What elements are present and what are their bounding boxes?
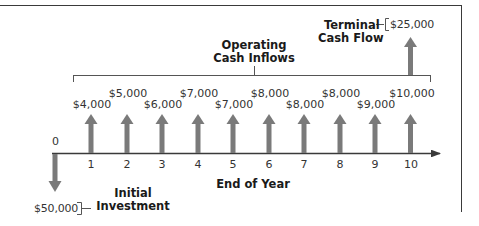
year-label-6: 6 — [266, 159, 273, 170]
inflow-label-year-3: $6,000 — [144, 99, 183, 110]
inflow-label-year-6: $8,000 — [251, 88, 290, 99]
inflow-arrow-year-4 — [192, 114, 205, 153]
operating-title-line1: Operating — [221, 38, 286, 52]
initial-investment-value: $50,000 — [34, 203, 78, 214]
year-label-2: 2 — [124, 159, 131, 170]
year-label-10: 10 — [404, 159, 418, 170]
operating-bracket — [73, 66, 431, 82]
year-label-8: 8 — [337, 159, 344, 170]
operating-title-line2: Cash Inflows — [213, 51, 295, 65]
terminal-arrow — [404, 37, 417, 75]
inflow-arrow-year-2 — [121, 114, 134, 153]
terminal-cash-flow-title: Terminal Cash Flow — [318, 19, 384, 45]
terminal-title-line2: Cash Flow — [318, 31, 384, 45]
inflow-arrow-year-10 — [404, 114, 417, 153]
inflow-label-year-10: $10,000 — [389, 88, 435, 99]
inflow-arrow-year-9 — [369, 114, 382, 153]
inflow-label-year-1: $4,000 — [73, 99, 112, 110]
inflow-arrow-year-3 — [156, 114, 169, 153]
initial-bracket — [77, 203, 91, 215]
inflow-arrow-year-8 — [334, 114, 347, 153]
initial-title-line1: Initial — [114, 186, 152, 200]
x-axis-label: End of Year — [208, 178, 298, 191]
year-label-9: 9 — [372, 159, 379, 170]
year-label-1: 1 — [88, 159, 95, 170]
inflow-arrow-year-1 — [85, 114, 98, 153]
year-label-4: 4 — [195, 159, 202, 170]
inflow-arrow-year-6 — [263, 114, 276, 153]
terminal-value: $25,000 — [390, 19, 434, 30]
year-label-7: 7 — [301, 159, 308, 170]
inflow-arrow-year-5 — [227, 114, 240, 153]
operating-cash-inflows-title: Operating Cash Inflows — [206, 39, 302, 65]
inflow-label-year-2: $5,000 — [109, 88, 148, 99]
inflow-label-year-7: $8,000 — [286, 99, 325, 110]
initial-title-line2: Investment — [96, 199, 170, 213]
inflow-label-year-8: $8,000 — [322, 88, 361, 99]
year-label-3: 3 — [159, 159, 166, 170]
inflow-label-year-4: $7,000 — [180, 88, 219, 99]
initial-investment-title: Initial Investment — [93, 187, 173, 213]
initial-investment-arrow — [49, 154, 62, 192]
inflow-arrow-year-7 — [298, 114, 311, 153]
timeline-graphic — [0, 0, 479, 226]
origin-label: 0 — [52, 136, 59, 147]
terminal-title-line1: Terminal — [324, 18, 380, 32]
inflow-arrows — [85, 114, 418, 153]
year-label-5: 5 — [230, 159, 237, 170]
inflow-label-year-5: $7,000 — [215, 99, 254, 110]
inflow-label-year-9: $9,000 — [357, 99, 396, 110]
